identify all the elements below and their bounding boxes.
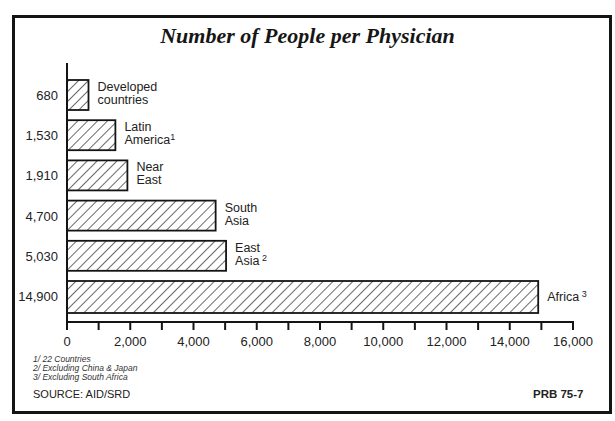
category-label: SouthAsia bbox=[225, 202, 258, 228]
category-label: Developedcountries bbox=[98, 81, 158, 107]
category-label: Africa 3 bbox=[547, 291, 586, 304]
category-label: NearEast bbox=[136, 161, 163, 187]
value-label: 4,700 bbox=[8, 209, 58, 224]
bar bbox=[67, 160, 127, 190]
bar bbox=[67, 120, 115, 150]
x-tick-label: 8,000 bbox=[290, 334, 350, 349]
x-tick-label: 2,000 bbox=[100, 334, 160, 349]
x-tick-label: 0 bbox=[37, 334, 97, 349]
x-tick-label: 10,000 bbox=[353, 334, 413, 349]
bar bbox=[67, 201, 216, 231]
x-tick-label: 12,000 bbox=[417, 334, 477, 349]
source-note: SOURCE: AID/SRD bbox=[33, 388, 130, 400]
value-label: 14,900 bbox=[8, 289, 58, 304]
x-tick-label: 4,000 bbox=[164, 334, 224, 349]
value-label: 1,910 bbox=[8, 168, 58, 183]
x-tick-label: 6,000 bbox=[227, 334, 287, 349]
category-label: EastAsia 2 bbox=[235, 242, 267, 268]
x-tick-label: 14,000 bbox=[480, 334, 540, 349]
footnote-3: 3/ Excluding South Africa bbox=[33, 372, 128, 382]
value-label: 5,030 bbox=[8, 249, 58, 264]
value-label: 680 bbox=[8, 88, 58, 103]
x-tick-label: 16,000 bbox=[543, 334, 603, 349]
value-label: 1,530 bbox=[8, 128, 58, 143]
bar bbox=[67, 281, 538, 313]
bar bbox=[67, 80, 89, 110]
bar bbox=[67, 241, 226, 271]
publication-code: PRB 75-7 bbox=[533, 388, 584, 400]
category-label: LatinAmerica1 bbox=[124, 121, 175, 147]
plot-area bbox=[0, 0, 615, 421]
